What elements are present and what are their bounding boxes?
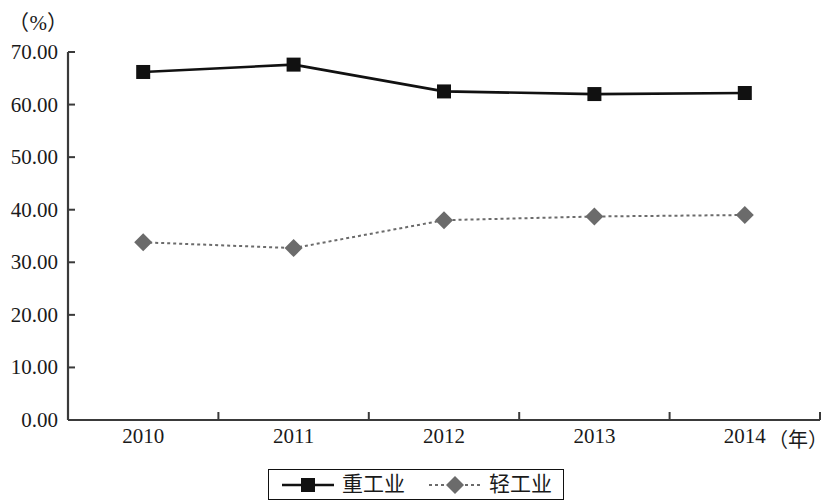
data-point-marker [136, 65, 150, 79]
data-point-marker [134, 233, 152, 251]
line-chart-figure: （%） 70.0060.0050.0040.0030.0020.0010.000… [0, 0, 830, 500]
y-axis-tick-label: 70.00 [0, 40, 58, 65]
y-axis-tick-label: 20.00 [0, 302, 58, 327]
legend-square-marker-icon [280, 475, 336, 495]
data-point-marker [587, 87, 601, 101]
data-point-marker [738, 86, 752, 100]
data-point-marker [585, 208, 603, 226]
plot-area [68, 52, 820, 420]
legend-item-label: 重工业 [342, 474, 405, 495]
legend-item-label: 轻工业 [489, 474, 552, 495]
x-axis-tick-labels: 20102011201220132014 [68, 424, 820, 458]
legend-diamond-marker-icon [427, 475, 483, 495]
data-point-marker [285, 239, 303, 257]
y-axis-tick-label: 50.00 [0, 145, 58, 170]
y-axis-tick-label: 60.00 [0, 92, 58, 117]
y-axis-tick-label: 0.00 [0, 408, 58, 433]
data-point-marker [437, 84, 451, 98]
y-axis-tick-label: 30.00 [0, 250, 58, 275]
x-axis-unit-label: （年） [768, 424, 828, 453]
data-point-marker [287, 58, 301, 72]
x-axis-tick-label: 2012 [423, 424, 465, 449]
y-axis-tick-labels: 70.0060.0050.0040.0030.0020.0010.000.00 [0, 0, 58, 500]
y-axis-tick-label: 10.00 [0, 355, 58, 380]
x-axis-tick-label: 2011 [273, 424, 314, 449]
data-point-marker [736, 206, 754, 224]
chart-canvas [68, 52, 820, 420]
x-axis-tick-label: 2013 [573, 424, 615, 449]
data-point-marker [435, 211, 453, 229]
x-axis-tick-label: 2010 [122, 424, 164, 449]
x-axis-tick-label: 2014 [724, 424, 766, 449]
y-axis-tick-label: 40.00 [0, 197, 58, 222]
chart-legend: 重工业轻工业 [268, 469, 564, 500]
legend-item[interactable]: 轻工业 [427, 474, 552, 495]
legend-item[interactable]: 重工业 [280, 474, 405, 495]
